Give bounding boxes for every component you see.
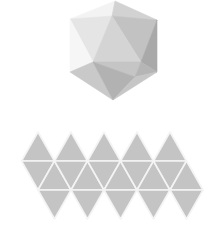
icosahedron-figure <box>0 0 215 237</box>
